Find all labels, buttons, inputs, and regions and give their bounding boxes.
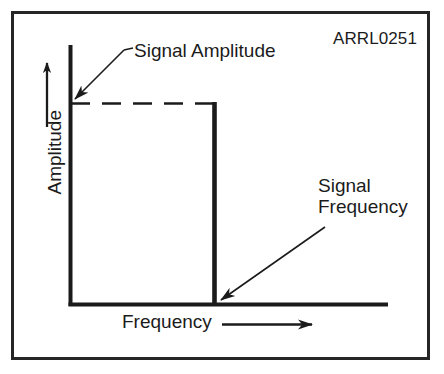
amplitude-callout-leader bbox=[124, 48, 133, 50]
source-id-label: ARRL0251 bbox=[333, 30, 417, 48]
frequency-callout-arrow bbox=[221, 227, 325, 300]
x-axis-title: Frequency bbox=[122, 312, 212, 333]
signal-amplitude-callout-label: Signal Amplitude bbox=[134, 41, 276, 62]
spectrum-figure: ARRL0251 Signal Amplitude SignalFrequenc… bbox=[0, 0, 444, 374]
signal-frequency-callout-line1: Signal bbox=[318, 175, 371, 196]
amplitude-callout-arrow bbox=[75, 50, 124, 99]
signal-frequency-callout-label: SignalFrequency bbox=[318, 176, 408, 217]
signal-frequency-callout-line2: Frequency bbox=[318, 196, 408, 217]
y-axis-title: Amplitude bbox=[45, 92, 66, 212]
